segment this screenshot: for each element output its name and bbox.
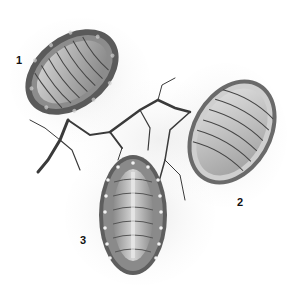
label-1: 1: [16, 55, 22, 66]
chiton-3: [99, 155, 167, 275]
label-2: 2: [237, 197, 243, 208]
illustration-canvas: [0, 0, 302, 294]
chiton-illustration: 1 2 3: [0, 0, 302, 294]
label-3: 3: [80, 235, 86, 246]
